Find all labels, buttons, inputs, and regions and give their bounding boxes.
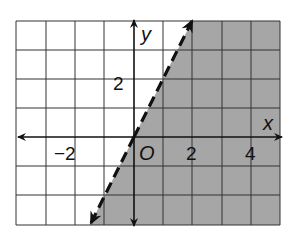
x-axis-label: x <box>262 112 274 134</box>
x-tick-label: 2 <box>186 143 197 164</box>
inequality-graph: y x O 2 −2 2 4 <box>0 0 290 241</box>
origin-label: O <box>139 142 155 164</box>
x-tick-label: 4 <box>245 143 256 164</box>
x-tick-label: −2 <box>54 143 76 164</box>
y-tick-label: 2 <box>113 73 124 94</box>
y-axis-label: y <box>139 23 152 45</box>
